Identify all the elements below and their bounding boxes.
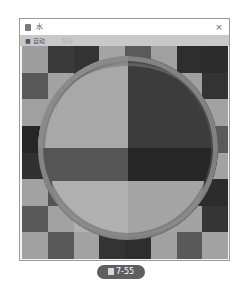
window-title: 水 [36, 19, 43, 35]
menu-item-auto[interactable]: ■ 自动 [23, 35, 47, 46]
render-canvas[interactable] [22, 46, 228, 259]
menu-bar: ■ 自动 暂停 [20, 35, 229, 46]
menu-item-pause[interactable]: 暂停 [59, 35, 75, 46]
figure-caption-badge: 7-55 [97, 265, 145, 279]
app-window: 水 × ■ 自动 暂停 [19, 18, 230, 261]
figure-icon [108, 268, 114, 275]
figure-caption-label: 7-55 [116, 267, 134, 276]
app-icon [25, 24, 31, 31]
sphere-rim [38, 56, 218, 240]
water-sphere [38, 56, 218, 240]
title-bar[interactable]: 水 × [20, 19, 229, 35]
close-button[interactable]: × [214, 22, 224, 32]
